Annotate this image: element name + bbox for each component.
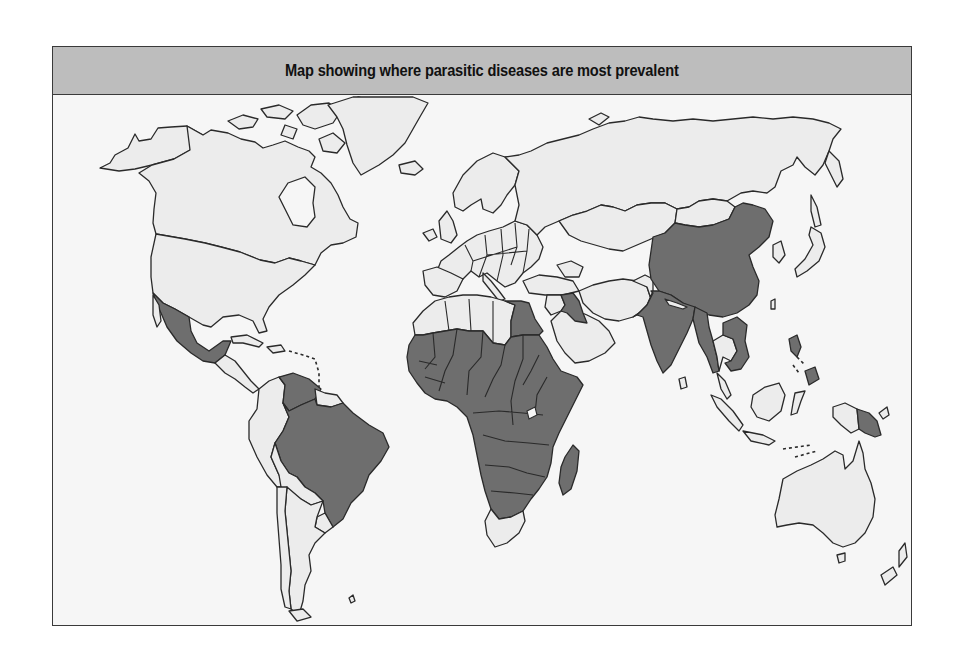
new-britain (879, 407, 889, 419)
new-guinea-west (833, 403, 859, 433)
united-kingdom (439, 211, 457, 243)
sub-saharan-africa (407, 329, 583, 519)
taiwan (771, 299, 775, 309)
central-america (215, 355, 259, 393)
cuba (231, 335, 263, 347)
novaya-zemlya (589, 113, 609, 125)
title-bar: Map showing where parasitic diseases are… (53, 47, 911, 95)
caucasus (557, 261, 583, 277)
sri-lanka (679, 377, 687, 389)
borneo (751, 383, 785, 421)
north-america (100, 97, 428, 393)
sulawesi (791, 391, 805, 415)
tasmania (837, 553, 845, 563)
new-zealand (881, 543, 907, 585)
madagascar (559, 445, 579, 495)
south-east-asia (637, 203, 889, 457)
ireland (423, 229, 437, 241)
oceania (775, 441, 907, 585)
philippines (789, 335, 819, 385)
sumatra (711, 395, 743, 431)
sakhalin (811, 195, 821, 227)
south-america (249, 373, 389, 621)
java (743, 431, 775, 445)
papua-new-guinea (857, 409, 881, 437)
map-title: Map showing where parasitic diseases are… (285, 61, 679, 81)
argentina (285, 487, 325, 615)
australia (775, 441, 875, 547)
malay-peninsula (717, 373, 731, 399)
falklands (349, 595, 355, 603)
iceland (399, 161, 423, 175)
lesser-sunda-islands (783, 445, 817, 457)
philippine-islands (793, 357, 805, 373)
japan (795, 227, 825, 277)
world-map (53, 95, 910, 625)
kamchatka (825, 151, 843, 187)
korea (773, 241, 785, 263)
map-figure: Map showing where parasitic diseases are… (52, 46, 912, 626)
hispaniola (267, 345, 285, 353)
tierra-del-fuego (289, 609, 311, 621)
turkey (523, 275, 579, 295)
